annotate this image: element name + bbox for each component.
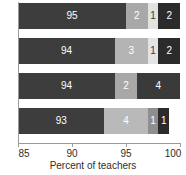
bar-segment-label: 93 — [56, 116, 67, 126]
bar-segment-label: 1 — [150, 11, 156, 21]
x-axis-tick-label: 90 — [66, 148, 77, 159]
bar-segment: 2 — [158, 3, 180, 29]
bar-segment: 94 — [18, 73, 115, 99]
y-axis-line — [18, 2, 19, 144]
table-row: 94312 — [18, 38, 180, 64]
bar-segment: 1 — [148, 38, 159, 64]
x-axis-title: Percent of teachers — [0, 160, 186, 171]
bar-segment-label: 94 — [61, 46, 72, 56]
bar-segment-label: 2 — [134, 11, 140, 21]
bar-segment: 1 — [158, 108, 169, 134]
bar-segment: 2 — [126, 3, 148, 29]
x-axis-tick-label: 95 — [120, 148, 131, 159]
x-axis-line — [18, 143, 180, 144]
bar-segment-label: 95 — [66, 11, 77, 21]
x-axis-tick — [72, 143, 73, 147]
bar-segment-label: 4 — [123, 116, 129, 126]
x-axis-tick — [180, 143, 181, 147]
x-axis-tick — [126, 143, 127, 147]
table-row: 93411 — [18, 108, 180, 134]
bar-segment: 2 — [115, 73, 137, 99]
bar-segment: 95 — [18, 3, 126, 29]
bar-segment-label: 3 — [129, 46, 135, 56]
bar-segment-label: 1 — [161, 116, 167, 126]
x-axis-tick — [18, 143, 19, 147]
bar-segment: 93 — [18, 108, 104, 134]
bar-segment-label: 2 — [166, 11, 172, 21]
bar-segment: 4 — [104, 108, 147, 134]
plot-area: 95212 94312 9424 93411 — [18, 2, 180, 143]
bar-segment: 3 — [115, 38, 147, 64]
bar-segment: 94 — [18, 38, 115, 64]
bar-segment: 1 — [148, 108, 159, 134]
table-row: 9424 — [18, 73, 180, 99]
x-axis-tick-label: 85 — [18, 148, 29, 159]
bar-segment: 1 — [148, 3, 159, 29]
stacked-bar-chart: 95212 94312 9424 93411 859095100 Percent… — [0, 0, 186, 175]
bar-segment-label: 1 — [150, 46, 156, 56]
bar-segment-label: 2 — [166, 46, 172, 56]
bar-segment-label: 1 — [150, 116, 156, 126]
bar-segment: 4 — [137, 73, 180, 99]
bar-segment-label: 4 — [156, 81, 162, 91]
bar-segment: 2 — [158, 38, 180, 64]
bar-segment-label: 94 — [61, 81, 72, 91]
bar-segment-label: 2 — [123, 81, 129, 91]
table-row: 95212 — [18, 3, 180, 29]
x-axis-tick-label: 100 — [165, 148, 182, 159]
